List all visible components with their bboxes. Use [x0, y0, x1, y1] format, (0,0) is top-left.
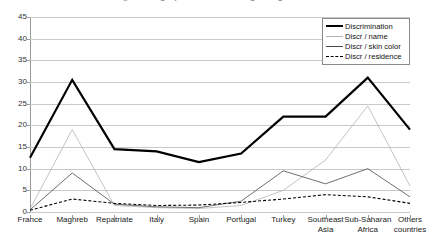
legend-item-discr-name: Discr / name [326, 31, 406, 41]
x-tick-label-others-countries: Others countries [386, 215, 431, 234]
y-tick-label-40: 40 [3, 35, 27, 43]
chart-legend: Discrimination Discr / name Discr / skin… [322, 18, 410, 65]
y-tick-label-10: 10 [3, 165, 27, 173]
x-tick-mark-2 [114, 215, 115, 218]
x-tick-mark-7 [326, 215, 327, 218]
x-tick-mark-3 [157, 215, 158, 218]
y-tick-label-45: 45 [3, 13, 27, 21]
y-axis-labels: 051015202530354045 [0, 17, 27, 213]
x-tick-mark-4 [199, 215, 200, 218]
y-tick-label-35: 35 [3, 56, 27, 64]
gridline-0 [30, 212, 410, 213]
y-tick-label-20: 20 [3, 121, 27, 129]
series-line-discrimination [30, 78, 410, 163]
legend-line-icon-discr-residence [326, 52, 343, 60]
x-tick-mark-6 [283, 215, 284, 218]
y-tick-label-15: 15 [3, 143, 27, 151]
legend-label: Discr / name [345, 32, 388, 41]
y-tick-label-5: 5 [3, 186, 27, 194]
x-tick-mark-9 [410, 215, 411, 218]
x-tick-mark-8 [368, 215, 369, 218]
x-axis-labels: FranceMaghrebRepatriateItalySpainPortuga… [30, 215, 410, 240]
y-tick-label-25: 25 [3, 100, 27, 108]
legend-label: Discrimination [345, 22, 393, 31]
series-line-discr-residence [30, 195, 410, 211]
x-tick-mark-0 [30, 215, 31, 218]
chart-title: (percentages) selected according to orig… [0, 0, 412, 3]
legend-label: Discr / residence [345, 52, 402, 61]
legend-item-discr-skin-color: Discr / skin color [326, 41, 406, 51]
legend-label: Discr / skin color [345, 42, 401, 51]
legend-item-discrimination: Discrimination [326, 21, 406, 31]
x-tick-mark-1 [72, 215, 73, 218]
legend-line-icon-discr-skin-color [326, 42, 343, 50]
legend-line-icon-discr-name [326, 32, 343, 40]
legend-item-discr-residence: Discr / residence [326, 51, 406, 61]
x-tick-mark-5 [241, 215, 242, 218]
y-tick-label-30: 30 [3, 78, 27, 86]
legend-line-icon-discrimination [326, 22, 343, 30]
